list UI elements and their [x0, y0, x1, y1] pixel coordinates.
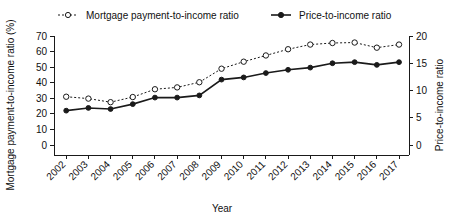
data-point-marker-1 — [241, 59, 246, 64]
right-tick-label: 0 — [416, 140, 422, 151]
data-point-marker-1 — [330, 40, 335, 45]
data-point-marker-1 — [352, 40, 357, 45]
data-point-marker-2 — [153, 95, 158, 100]
left-axis-title: Mortgage payment-to-income ratio (%) — [5, 19, 16, 190]
data-point-marker-2 — [64, 108, 69, 113]
x-tick-label: 2016 — [355, 158, 379, 182]
data-point-marker-1 — [308, 42, 313, 47]
legend-marker-filled-circle-icon — [278, 12, 283, 17]
right-tick-label: 10 — [416, 85, 428, 96]
left-tick-label: 10 — [36, 124, 48, 135]
right-axis-title: Price-to-income ratio — [434, 58, 445, 151]
x-tick-label: 2005 — [111, 158, 135, 182]
data-point-marker-1 — [197, 80, 202, 85]
data-point-marker-1 — [396, 42, 401, 47]
data-point-marker-2 — [197, 93, 202, 98]
data-point-marker-1 — [374, 45, 379, 50]
data-point-marker-1 — [285, 47, 290, 52]
series-line-1 — [66, 43, 399, 103]
x-tick-label: 2014 — [310, 158, 334, 182]
x-tick-label: 2017 — [377, 158, 401, 182]
x-tick-label: 2007 — [155, 158, 179, 182]
data-point-marker-1 — [152, 87, 157, 92]
chart-legend: Mortgage payment-to-income ratio Price-t… — [58, 10, 392, 21]
data-point-marker-2 — [263, 71, 268, 76]
x-tick-label: 2010 — [222, 158, 246, 182]
x-tick-label: 2008 — [177, 158, 201, 182]
left-tick-label: 20 — [36, 108, 48, 119]
dual-axis-line-chart: Mortgage payment-to-income ratio Price-t… — [0, 0, 457, 220]
chart-series-layer — [63, 40, 401, 113]
x-tick-label: 2003 — [66, 158, 90, 182]
legend-label-mortgage: Mortgage payment-to-income ratio — [86, 10, 239, 21]
data-point-marker-2 — [352, 60, 357, 65]
data-point-marker-1 — [130, 94, 135, 99]
right-tick-label: 15 — [416, 58, 428, 69]
chart-figure: Mortgage payment-to-income ratio Price-t… — [0, 0, 457, 220]
legend-item-mortgage: Mortgage payment-to-income ratio — [58, 10, 239, 21]
data-point-marker-2 — [374, 62, 379, 67]
legend-marker-open-circle-icon — [65, 12, 70, 17]
x-tick-label: 2002 — [44, 158, 68, 182]
data-point-marker-1 — [108, 99, 113, 104]
data-point-marker-1 — [263, 53, 268, 58]
left-tick-label: 50 — [36, 62, 48, 73]
data-point-marker-2 — [130, 102, 135, 107]
data-point-marker-1 — [219, 66, 224, 71]
legend-item-price: Price-to-income ratio — [271, 10, 392, 21]
x-axis-ticks: 2002200320042005200620072008200920102011… — [44, 155, 401, 182]
left-tick-label: 40 — [36, 77, 48, 88]
data-point-marker-2 — [308, 65, 313, 70]
x-tick-label: 2006 — [133, 158, 157, 182]
data-point-marker-2 — [86, 106, 91, 111]
left-tick-label: 0 — [41, 140, 47, 151]
legend-label-price: Price-to-income ratio — [299, 10, 392, 21]
data-point-marker-2 — [330, 61, 335, 66]
x-tick-label: 2004 — [88, 158, 112, 182]
x-tick-label: 2012 — [266, 158, 290, 182]
data-point-marker-2 — [241, 75, 246, 80]
data-point-marker-1 — [174, 85, 179, 90]
data-point-marker-2 — [108, 107, 113, 112]
series-line-2 — [66, 62, 399, 111]
data-point-marker-2 — [397, 60, 402, 65]
left-tick-label: 30 — [36, 93, 48, 104]
left-axis-ticks: 010203040506070 — [36, 31, 54, 151]
x-tick-label: 2015 — [333, 158, 357, 182]
x-tick-label: 2011 — [244, 158, 267, 181]
x-tick-label: 2009 — [199, 158, 223, 182]
data-point-marker-2 — [175, 95, 180, 100]
left-tick-label: 60 — [36, 46, 48, 57]
data-point-marker-2 — [286, 67, 291, 72]
data-point-marker-1 — [63, 94, 68, 99]
left-tick-label: 70 — [36, 31, 48, 42]
data-point-marker-2 — [219, 77, 224, 82]
right-tick-label: 20 — [416, 31, 428, 42]
x-axis-title: Year — [212, 203, 233, 214]
data-point-marker-1 — [86, 96, 91, 101]
x-tick-label: 2013 — [288, 158, 312, 182]
right-tick-label: 5 — [416, 112, 422, 123]
right-axis-ticks: 05101520 — [409, 31, 428, 151]
